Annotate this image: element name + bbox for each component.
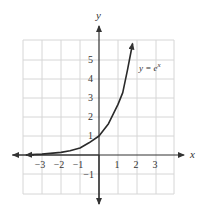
x-tick: −3 (35, 159, 46, 170)
x-tick: 2 (134, 159, 139, 170)
x-tick-labels: −3 −2 −1 1 2 3 (35, 159, 158, 170)
y-tick: 5 (88, 54, 93, 65)
curve-label-base: y = e (138, 63, 158, 73)
x-tick: 3 (153, 159, 158, 170)
curve-label: y = ex (138, 61, 162, 73)
x-tick: 1 (115, 159, 120, 170)
y-axis-label: y (95, 9, 101, 21)
curve-label-exponent: x (157, 61, 162, 69)
y-tick: 1 (88, 130, 93, 141)
y-tick: 2 (88, 111, 93, 122)
y-tick: 3 (88, 92, 93, 103)
y-tick: −1 (83, 169, 94, 180)
y-tick: 4 (88, 73, 93, 84)
x-tick: −2 (54, 159, 65, 170)
x-tick: −1 (73, 159, 84, 170)
exponential-graph: x y −3 −2 −1 1 2 3 5 4 3 2 1 −1 y = ex (0, 0, 205, 218)
x-axis-label: x (189, 148, 195, 160)
